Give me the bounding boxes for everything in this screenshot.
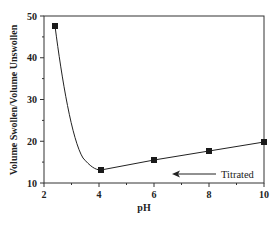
annotation-label: Titrated bbox=[221, 169, 255, 180]
x-tick-label: 6 bbox=[152, 189, 157, 200]
x-tick-label: 4 bbox=[97, 189, 102, 200]
y-axis-ticks bbox=[40, 16, 44, 183]
y-tick-label: 20 bbox=[27, 136, 37, 147]
y-tick-label: 30 bbox=[27, 94, 37, 105]
data-markers bbox=[52, 23, 267, 173]
y-tick-label: 40 bbox=[27, 52, 37, 63]
x-axis-title: pH bbox=[137, 202, 151, 213]
data-line bbox=[55, 26, 264, 170]
x-tick-labels: 2 4 6 8 10 bbox=[42, 189, 270, 200]
data-point bbox=[151, 157, 157, 163]
data-point bbox=[52, 23, 58, 29]
x-axis-ticks bbox=[44, 183, 264, 187]
x-tick-label: 8 bbox=[207, 189, 212, 200]
y-tick-label: 50 bbox=[27, 11, 37, 22]
y-tick-labels: 10 20 30 40 50 bbox=[27, 11, 37, 189]
x-tick-label: 2 bbox=[42, 189, 47, 200]
y-tick-label: 10 bbox=[27, 178, 37, 189]
data-point bbox=[98, 167, 104, 173]
data-point bbox=[261, 139, 267, 145]
chart: 10 20 30 40 50 2 4 6 8 10 pH Volume Swol… bbox=[0, 0, 280, 225]
titrated-annotation: Titrated bbox=[172, 169, 255, 180]
data-point bbox=[206, 148, 212, 154]
y-axis-title: Volume Swollen/Volume Unswollen bbox=[8, 24, 19, 175]
x-tick-label: 10 bbox=[259, 189, 269, 200]
